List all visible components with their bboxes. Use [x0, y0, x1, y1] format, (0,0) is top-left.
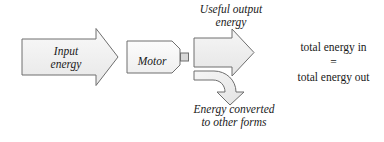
input-energy-label-line2: energy	[51, 58, 82, 70]
energy-flow-diagram: Inputenergy Motor Useful outputenergy En…	[0, 0, 384, 142]
waste-energy-arrow-shape	[194, 71, 244, 105]
motor-label-text: Motor	[138, 55, 167, 67]
waste-energy-label-line1: Energy converted	[194, 103, 275, 115]
motor-shaft-stub	[181, 53, 189, 61]
input-energy-label-line1: Input	[54, 45, 78, 57]
useful-output-label: Useful outputenergy	[179, 3, 283, 29]
waste-energy-label-line2: to other forms	[201, 116, 266, 128]
conservation-line1: total energy in	[300, 41, 366, 53]
useful-output-arrow-shape	[194, 29, 254, 76]
conservation-equals-sign: =	[284, 55, 383, 70]
waste-energy-label: Energy convertedto other forms	[178, 103, 290, 129]
conservation-line2: total energy out	[298, 71, 370, 83]
motor-label: Motor	[129, 55, 175, 68]
input-energy-label: Inputenergy	[30, 45, 102, 71]
useful-output-label-line2: energy	[216, 16, 247, 28]
useful-output-label-line1: Useful output	[200, 3, 262, 15]
conservation-of-energy-statement: total energy in=total energy out	[284, 40, 383, 85]
